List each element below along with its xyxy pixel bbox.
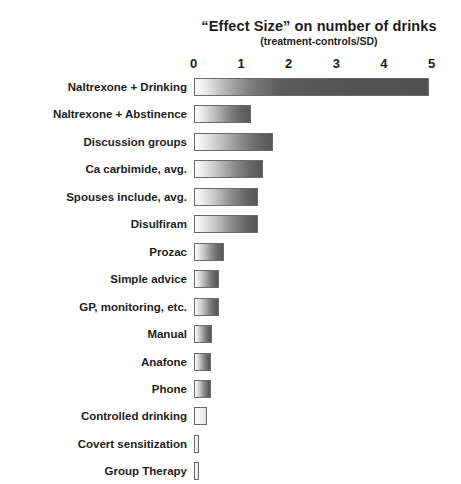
bar: [194, 462, 199, 480]
category-label: Naltrexone + Drinking: [68, 80, 187, 95]
bar: [194, 243, 224, 261]
bar: [194, 160, 263, 178]
bar-row: Covert sensitization: [0, 435, 461, 454]
bar-row: Manual: [0, 325, 461, 344]
bar-row: Discussion groups: [0, 133, 461, 152]
bar: [194, 215, 259, 233]
bar: [194, 380, 211, 398]
category-label: Anafone: [141, 355, 187, 370]
bar-row: Group Therapy: [0, 462, 461, 481]
bar: [194, 78, 430, 96]
bar: [194, 105, 251, 123]
category-label: Disulfiram: [131, 217, 187, 232]
category-label: Manual: [147, 327, 187, 342]
effect-size-bar-chart: “Effect Size” on number of drinks (treat…: [0, 0, 461, 484]
plot-area: Naltrexone + DrinkingNaltrexone + Abstin…: [0, 0, 461, 484]
bar-row: Ca carbimide, avg.: [0, 160, 461, 179]
category-label: Naltrexone + Abstinence: [53, 107, 187, 122]
category-label: Prozac: [149, 245, 187, 260]
bar-row: Simple advice: [0, 270, 461, 289]
bar-row: Anafone: [0, 353, 461, 372]
category-label: GP, monitoring, etc.: [79, 300, 187, 315]
bar: [194, 435, 199, 453]
bar: [194, 325, 213, 343]
bar-row: Controlled drinking: [0, 407, 461, 426]
bar: [194, 133, 273, 151]
bar: [194, 407, 207, 425]
category-label: Controlled drinking: [81, 409, 187, 424]
category-label: Phone: [152, 382, 187, 397]
bar: [194, 270, 219, 288]
bar-row: Spouses include, avg.: [0, 188, 461, 207]
category-label: Group Therapy: [105, 464, 187, 479]
bar-row: Naltrexone + Drinking: [0, 78, 461, 97]
bar-row: Prozac: [0, 243, 461, 262]
bar-row: GP, monitoring, etc.: [0, 298, 461, 317]
bar: [194, 298, 219, 316]
bar-row: Naltrexone + Abstinence: [0, 105, 461, 124]
category-label: Discussion groups: [83, 135, 187, 150]
bar: [194, 188, 259, 206]
bar: [194, 353, 212, 371]
category-label: Covert sensitization: [78, 437, 187, 452]
bar-row: Disulfiram: [0, 215, 461, 234]
category-label: Spouses include, avg.: [66, 190, 187, 205]
category-label: Simple advice: [110, 272, 187, 287]
category-label: Ca carbimide, avg.: [85, 162, 187, 177]
bar-row: Phone: [0, 380, 461, 399]
